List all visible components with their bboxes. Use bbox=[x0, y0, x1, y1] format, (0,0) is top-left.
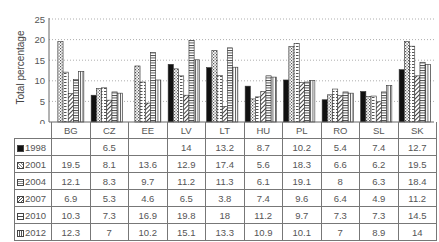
column-header: LT bbox=[206, 122, 245, 139]
table-cell: 11.2 bbox=[167, 173, 206, 190]
table-cell: 7 bbox=[90, 224, 129, 241]
table-cell: 8.9 bbox=[360, 224, 399, 241]
bar-RO-2001 bbox=[327, 95, 332, 122]
legend-entry: 2010 bbox=[15, 207, 52, 224]
table-cell: 13.3 bbox=[206, 224, 245, 241]
bar-PL-2007 bbox=[299, 82, 304, 122]
table-cell bbox=[129, 139, 168, 156]
legend-swatch-icon bbox=[17, 230, 24, 237]
table-row: 19986.51413.28.710.25.47.412.7 bbox=[15, 139, 437, 156]
legend-swatch-icon bbox=[17, 162, 24, 169]
table-cell: 14 bbox=[398, 224, 437, 241]
table-row: 200119.58.113.612.917.45.618.36.66.219.5 bbox=[15, 156, 437, 173]
bar-CZ-1998 bbox=[91, 95, 96, 122]
table-cell: 7.4 bbox=[360, 139, 399, 156]
bar-CZ-2012 bbox=[117, 93, 122, 122]
bar-RO-1998 bbox=[322, 100, 327, 122]
bar-LV-2007 bbox=[184, 95, 189, 122]
table-cell: 18.4 bbox=[398, 173, 437, 190]
bar-PL-1998 bbox=[284, 80, 289, 122]
bar-PL-2010 bbox=[304, 82, 309, 122]
bar-SL-1998 bbox=[361, 92, 366, 122]
table-cell: 8.3 bbox=[90, 173, 129, 190]
table-cell: 12.3 bbox=[52, 224, 91, 241]
bar-HU-2007 bbox=[261, 92, 266, 122]
table-cell: 6.1 bbox=[244, 173, 283, 190]
y-tick-label: 5 bbox=[40, 96, 45, 107]
table-cell bbox=[52, 139, 91, 156]
column-header: HU bbox=[244, 122, 283, 139]
bar-EE-2012 bbox=[156, 80, 161, 122]
table-cell: 19.1 bbox=[283, 173, 322, 190]
table-cell: 9.7 bbox=[129, 173, 168, 190]
bar-PL-2001 bbox=[289, 47, 294, 122]
bar-BG-2010 bbox=[73, 80, 78, 122]
bar-BG-2007 bbox=[68, 94, 73, 122]
bar-LV-2012 bbox=[194, 60, 199, 122]
bar-CZ-2001 bbox=[96, 89, 101, 122]
table-cell: 5.4 bbox=[321, 139, 360, 156]
bar-EE-2010 bbox=[150, 52, 155, 122]
legend-entry: 2012 bbox=[15, 224, 52, 241]
table-cell: 12.7 bbox=[398, 139, 437, 156]
y-axis-ticks: 0510152025 bbox=[34, 14, 45, 125]
bar-EE-2004 bbox=[140, 82, 145, 122]
table-cell: 9.6 bbox=[283, 190, 322, 207]
bar-HU-2012 bbox=[271, 77, 276, 122]
table-cell: 7 bbox=[321, 224, 360, 241]
column-header: BG bbox=[52, 122, 91, 139]
bar-LV-2004 bbox=[179, 76, 184, 122]
table-cell: 6.5 bbox=[90, 139, 129, 156]
table-cell: 10.1 bbox=[283, 224, 322, 241]
column-header: EE bbox=[129, 122, 168, 139]
bar-LV-2001 bbox=[173, 69, 178, 122]
bar-SL-2012 bbox=[387, 85, 392, 122]
bar-RO-2010 bbox=[343, 92, 348, 122]
table-cell: 10.2 bbox=[283, 139, 322, 156]
bar-LT-1998 bbox=[207, 68, 212, 122]
bar-EE-2001 bbox=[135, 66, 140, 122]
bar-PL-2012 bbox=[310, 80, 315, 122]
table-cell: 8.7 bbox=[244, 139, 283, 156]
column-header: CZ bbox=[90, 122, 129, 139]
table-cell: 10.3 bbox=[52, 207, 91, 224]
bars bbox=[58, 40, 431, 122]
column-header: SL bbox=[360, 122, 399, 139]
bar-CZ-2004 bbox=[102, 88, 107, 122]
bar-EE-2007 bbox=[145, 103, 150, 122]
table-cell: 15.1 bbox=[167, 224, 206, 241]
bar-SK-2001 bbox=[404, 42, 409, 122]
bar-BG-2012 bbox=[79, 71, 84, 122]
bar-LT-2001 bbox=[212, 50, 217, 122]
table-cell: 19.8 bbox=[167, 207, 206, 224]
table-cell: 7.3 bbox=[90, 207, 129, 224]
table-cell: 13.6 bbox=[129, 156, 168, 173]
column-header: LV bbox=[167, 122, 206, 139]
legend-swatch-icon bbox=[17, 179, 24, 186]
table-cell: 16.9 bbox=[129, 207, 168, 224]
bar-LT-2010 bbox=[227, 48, 232, 122]
bar-SK-2007 bbox=[415, 76, 420, 122]
table-row: 20076.95.34.66.53.87.49.66.44.911.2 bbox=[15, 190, 437, 207]
table-cell: 5.3 bbox=[90, 190, 129, 207]
table-cell: 6.6 bbox=[321, 156, 360, 173]
table-cell: 11.2 bbox=[398, 190, 437, 207]
bar-RO-2012 bbox=[348, 93, 353, 122]
table-cell: 6.4 bbox=[321, 190, 360, 207]
bar-CZ-2007 bbox=[107, 100, 112, 122]
bar-BG-2001 bbox=[58, 42, 63, 122]
y-tick-label: 25 bbox=[34, 14, 45, 25]
bar-SL-2010 bbox=[381, 92, 386, 122]
bar-LT-2004 bbox=[217, 75, 222, 122]
table-row: 200412.18.39.711.211.36.119.186.318.4 bbox=[15, 173, 437, 190]
bar-LT-2007 bbox=[222, 106, 227, 122]
y-tick-label: 10 bbox=[34, 75, 45, 86]
table-row: 201010.37.316.919.81811.29.77.37.314.5 bbox=[15, 207, 437, 224]
table-cell: 10.9 bbox=[244, 224, 283, 241]
table-cell: 10.2 bbox=[129, 224, 168, 241]
data-table: BGCZEELVLTHUPLROSLSK19986.51413.28.710.2… bbox=[14, 122, 437, 241]
table-cell: 6.2 bbox=[360, 156, 399, 173]
table-cell: 6.3 bbox=[360, 173, 399, 190]
bar-SK-2012 bbox=[425, 64, 430, 122]
table-cell: 6.5 bbox=[167, 190, 206, 207]
